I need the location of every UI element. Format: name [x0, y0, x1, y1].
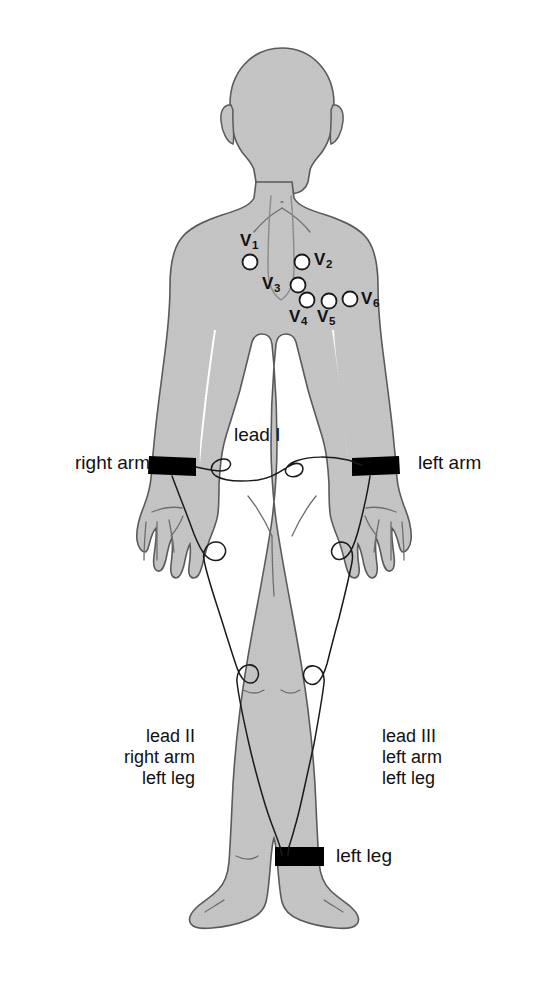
- electrode-label-v3: V3: [262, 274, 280, 294]
- left-wrist-band: [352, 456, 400, 476]
- electrode-v2: [295, 255, 310, 270]
- electrode-label-index: 1: [252, 239, 259, 251]
- head-shape: [230, 48, 334, 194]
- electrode-label-letter: V: [240, 231, 252, 250]
- electrode-label-v4: V4: [289, 307, 307, 327]
- lead-iii-band-stub: [288, 847, 289, 855]
- electrode-v1: [243, 255, 258, 270]
- electrode-label-v2: V2: [314, 250, 332, 270]
- body-silhouette: [137, 48, 411, 928]
- lead-ii-label-group: lead II right arm left leg: [20, 726, 195, 790]
- lead-ii-line-2: right arm: [20, 747, 195, 768]
- electrode-label-letter: V: [314, 250, 326, 269]
- lead-iii-label-group: lead III left arm left leg: [382, 726, 442, 790]
- electrode-label-letter: V: [361, 289, 373, 308]
- right-arm-label: right arm: [10, 452, 150, 474]
- left-arm-label: left arm: [418, 452, 481, 474]
- left-ankle-band: [275, 847, 324, 866]
- lead-iii-line-1: lead III: [382, 726, 442, 747]
- electrode-v3: [291, 278, 306, 293]
- electrode-label-index: 3: [274, 282, 281, 294]
- electrode-label-letter: V: [289, 307, 301, 326]
- right-wrist-band: [148, 456, 196, 476]
- lead-iii-line-2: left arm: [382, 747, 442, 768]
- electrode-label-v1: V1: [240, 231, 258, 251]
- lead-i-label: lead I: [234, 424, 280, 446]
- electrode-label-index: 4: [301, 315, 308, 327]
- electrode-v6: [343, 292, 358, 307]
- left-leg-label: left leg: [336, 845, 392, 867]
- electrode-label-v6: V6: [361, 289, 379, 309]
- lead-ii-line-3: left leg: [20, 768, 195, 789]
- electrode-label-v5: V5: [317, 307, 335, 327]
- lead-ii-line-1: lead II: [20, 726, 195, 747]
- electrode-label-letter: V: [262, 274, 274, 293]
- electrode-label-index: 6: [373, 297, 380, 309]
- left-ear-shape: [330, 105, 343, 144]
- electrode-label-letter: V: [317, 307, 329, 326]
- electrode-label-index: 2: [326, 258, 333, 270]
- electrode-v4: [300, 293, 315, 308]
- ecg-lead-placement-diagram: [0, 0, 537, 988]
- right-ear-shape: [221, 105, 234, 144]
- electrode-label-index: 5: [329, 315, 336, 327]
- lead-iii-line-3: left leg: [382, 768, 442, 789]
